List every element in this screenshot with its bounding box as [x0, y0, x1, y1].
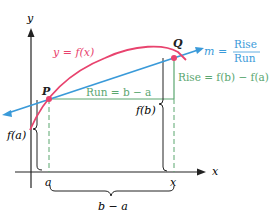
secant-arrow-right-icon — [195, 47, 204, 54]
secant-slope-diagram: y x y = f(x) P Q Run = b − a Rise = f(b)… — [0, 0, 274, 221]
y-axis-label: y — [26, 12, 34, 25]
x-tick-a: a — [45, 176, 52, 189]
fb-bracket — [159, 58, 167, 171]
curve-label: y = f(x) — [52, 46, 94, 59]
y-axis-arrow-icon — [28, 28, 35, 37]
slope-m-label: m = — [204, 45, 227, 58]
fb-label: f(b) — [135, 104, 156, 117]
fa-label: f(a) — [6, 129, 26, 142]
x-axis-arrow-icon — [197, 169, 206, 176]
rise-label: Rise = f(b) − f(a) — [178, 71, 269, 83]
secant-arrow-left-icon — [2, 110, 12, 117]
brace-label: b − a — [98, 200, 128, 213]
b-minus-a-brace — [50, 186, 174, 196]
point-q-label: Q — [173, 37, 183, 50]
slope-numerator: Rise — [234, 38, 257, 50]
point-p-label: P — [41, 85, 51, 98]
x-axis-label: x — [212, 165, 219, 178]
slope-denominator: Run — [234, 52, 256, 64]
point-q — [171, 55, 177, 61]
run-label: Run = b − a — [86, 86, 151, 98]
x-tick-x: x — [170, 176, 177, 189]
